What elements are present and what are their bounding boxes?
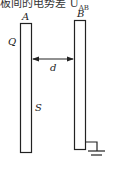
charge-label: Q <box>8 36 16 47</box>
plate-a-label: A <box>21 11 29 22</box>
ground-wire <box>86 142 97 151</box>
separation-label: d <box>50 62 56 73</box>
ground-icon <box>88 151 105 155</box>
plate-a <box>21 24 32 153</box>
area-label: S <box>35 102 42 113</box>
plate-b-label: B <box>76 8 84 19</box>
arrowhead-right-icon <box>67 57 74 62</box>
capacitor-diagram: A B Q d S <box>0 0 113 170</box>
arrowhead-left-icon <box>32 57 39 62</box>
plate-b <box>75 21 86 150</box>
